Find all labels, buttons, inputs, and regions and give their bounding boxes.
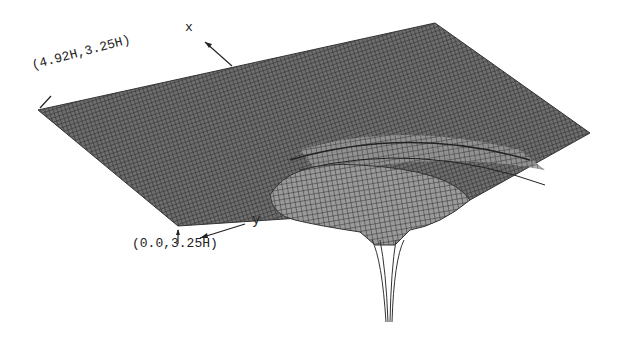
y-axis-label: y bbox=[252, 212, 260, 228]
x-axis-label: x bbox=[185, 20, 193, 35]
spike bbox=[372, 240, 404, 322]
corner-bottom-label: (0.0,3.25H) bbox=[132, 236, 218, 251]
corner-top-marker bbox=[40, 96, 51, 108]
